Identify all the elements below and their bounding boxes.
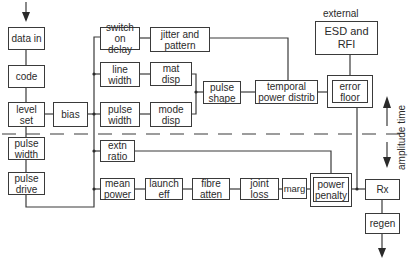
- block-regen: regen: [365, 213, 400, 234]
- block-label: regen: [370, 218, 396, 229]
- block-label: fibre atten: [200, 178, 222, 200]
- block-label: pulse shape: [208, 82, 235, 104]
- block-label: launch eff: [149, 178, 178, 200]
- block-pulse-shape: pulse shape: [203, 81, 241, 104]
- block-data-in: data in: [8, 27, 45, 50]
- block-mean-power: mean power: [100, 178, 135, 200]
- block-level-set: level set: [8, 102, 45, 127]
- block-line-width: line width: [100, 62, 140, 87]
- block-label: marg: [284, 183, 306, 194]
- block-power-penalty: power penalty: [313, 177, 349, 202]
- block-label: jitter and pattern: [161, 29, 199, 51]
- block-label: mode disp: [158, 104, 183, 126]
- block-esd-and-rfi: ESD and RFI: [315, 21, 378, 55]
- block-pulse-width-left: pulse width: [8, 137, 45, 160]
- block-label: bias: [61, 109, 79, 120]
- block-label: extn ratio: [108, 140, 127, 162]
- block-label: temporal power distrib: [258, 81, 315, 103]
- block-pulse-drive: pulse drive: [8, 172, 45, 195]
- block-label: switch on delay: [102, 22, 138, 55]
- block-label: Rx: [376, 184, 388, 195]
- block-rx: Rx: [365, 179, 400, 200]
- block-marg: marg: [282, 178, 307, 199]
- block-launch-eff: launch eff: [145, 178, 183, 200]
- block-label: pulse width: [15, 138, 39, 160]
- block-label: level set: [16, 104, 37, 126]
- block-pulse-width-mid: pulse width: [100, 102, 140, 127]
- block-label: ESD and RFI: [324, 25, 368, 51]
- block-code: code: [8, 65, 45, 88]
- block-label: mean power: [104, 178, 131, 200]
- block-error-floor: error floor: [332, 80, 368, 103]
- block-jitter-and-pattern: jitter and pattern: [150, 27, 210, 52]
- external-label: external: [323, 8, 359, 19]
- block-label: code: [16, 71, 38, 82]
- block-label: error floor: [339, 81, 360, 103]
- block-mode-disp: mode disp: [150, 102, 192, 127]
- block-switch-on-delay: switch on delay: [100, 27, 140, 50]
- amplitude-time-label: amplitude time: [396, 105, 407, 170]
- block-label: data in: [11, 33, 41, 44]
- block-extn-ratio: extn ratio: [100, 140, 135, 162]
- block-label: pulse width: [108, 104, 132, 126]
- block-bias: bias: [53, 102, 88, 127]
- block-label: joint loss: [250, 178, 268, 200]
- block-label: line width: [108, 64, 131, 86]
- block-temporal-power-distrib: temporal power distrib: [255, 80, 318, 104]
- block-mat-disp: mat disp: [150, 62, 192, 86]
- block-label: power penalty: [315, 179, 347, 201]
- block-label: mat disp: [162, 63, 180, 85]
- block-label: pulse drive: [15, 173, 39, 195]
- block-fibre-atten: fibre atten: [192, 178, 230, 200]
- block-joint-loss: joint loss: [240, 178, 279, 200]
